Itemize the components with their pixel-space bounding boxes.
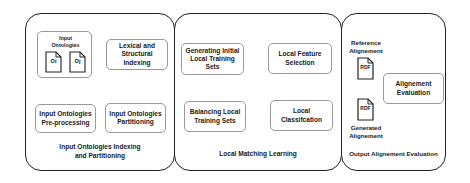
partitioning-line-2: Partitioning xyxy=(109,118,161,126)
reference-alignement-label: Reference Alignement xyxy=(346,39,386,55)
input-ontologies-title-line-2: Ontologies xyxy=(38,42,93,49)
node-feature-selection: Local Feature Selection xyxy=(268,43,332,74)
phase-local-matching-learning xyxy=(174,13,342,171)
preprocessing-line-2: Pre-processing xyxy=(39,119,91,127)
ontology-oi-doc: Oi xyxy=(45,51,62,73)
balancing-line-2: Training Sets xyxy=(190,117,241,125)
classification-line-1: Local Classifcation xyxy=(273,107,330,123)
indexing-line-1: Lexical and xyxy=(109,42,165,50)
generating-line-1: Generating Initial xyxy=(184,47,241,55)
node-generating-initial-sets: Generating Initial Local Training Sets xyxy=(181,43,244,75)
reference-rdf-doc: RDF xyxy=(357,57,374,80)
reference-rdf-label: RDF xyxy=(357,64,374,70)
node-preprocessing: Input Ontologies Pre-processing xyxy=(35,104,96,133)
generated-rdf-label: RDF xyxy=(357,105,374,111)
reference-line-1: Reference xyxy=(346,39,386,47)
indexing-caption-line-1: Input Ontologies Indexing xyxy=(25,143,175,152)
node-classification: Local Classifcation xyxy=(270,100,333,131)
generated-line-1: Generated xyxy=(346,124,386,132)
phase-matching-caption: Local Matching Learning xyxy=(174,150,342,159)
generating-line-2: Local Training Sets xyxy=(184,55,241,71)
input-ontologies-title-line-1: Input xyxy=(38,35,93,42)
indexing-line-2: Structural Indexing xyxy=(109,50,165,66)
balancing-line-1: Balancing Local xyxy=(190,108,241,116)
generated-line-2: Alignement xyxy=(346,132,386,140)
evaluation-line-1: Alignement xyxy=(396,80,432,88)
ontology-oi-label: Oi xyxy=(45,58,62,65)
phase-evaluation-caption: Output Alignement Evaluation xyxy=(341,150,446,158)
input-ontologies-group: Input Ontologies Oi Oj xyxy=(37,31,92,78)
feature-line-2: Selection xyxy=(279,59,322,67)
node-alignement-evaluation: Alignement Evaluation xyxy=(383,73,444,104)
evaluation-line-2: Evaluation xyxy=(396,89,432,97)
node-lexical-structural-indexing: Lexical and Structural Indexing xyxy=(106,39,168,70)
node-balancing-sets: Balancing Local Training Sets xyxy=(184,101,246,132)
generated-rdf-doc: RDF xyxy=(357,98,374,121)
partitioning-line-1: Input Ontologies xyxy=(109,110,161,118)
preprocessing-line-1: Input Ontologies xyxy=(39,110,91,118)
node-partitioning: Input Ontologies Partitioning xyxy=(105,103,166,133)
generated-alignement-label: Generated Alignement xyxy=(346,124,386,140)
feature-line-1: Local Feature xyxy=(279,50,322,58)
indexing-caption-line-2: and Partitioning xyxy=(25,152,175,161)
ontology-oj-doc: Oj xyxy=(69,51,86,73)
ontology-oj-label: Oj xyxy=(69,58,86,65)
phase-indexing-caption: Input Ontologies Indexing and Partitioni… xyxy=(25,143,175,160)
reference-line-2: Alignement xyxy=(346,47,386,55)
